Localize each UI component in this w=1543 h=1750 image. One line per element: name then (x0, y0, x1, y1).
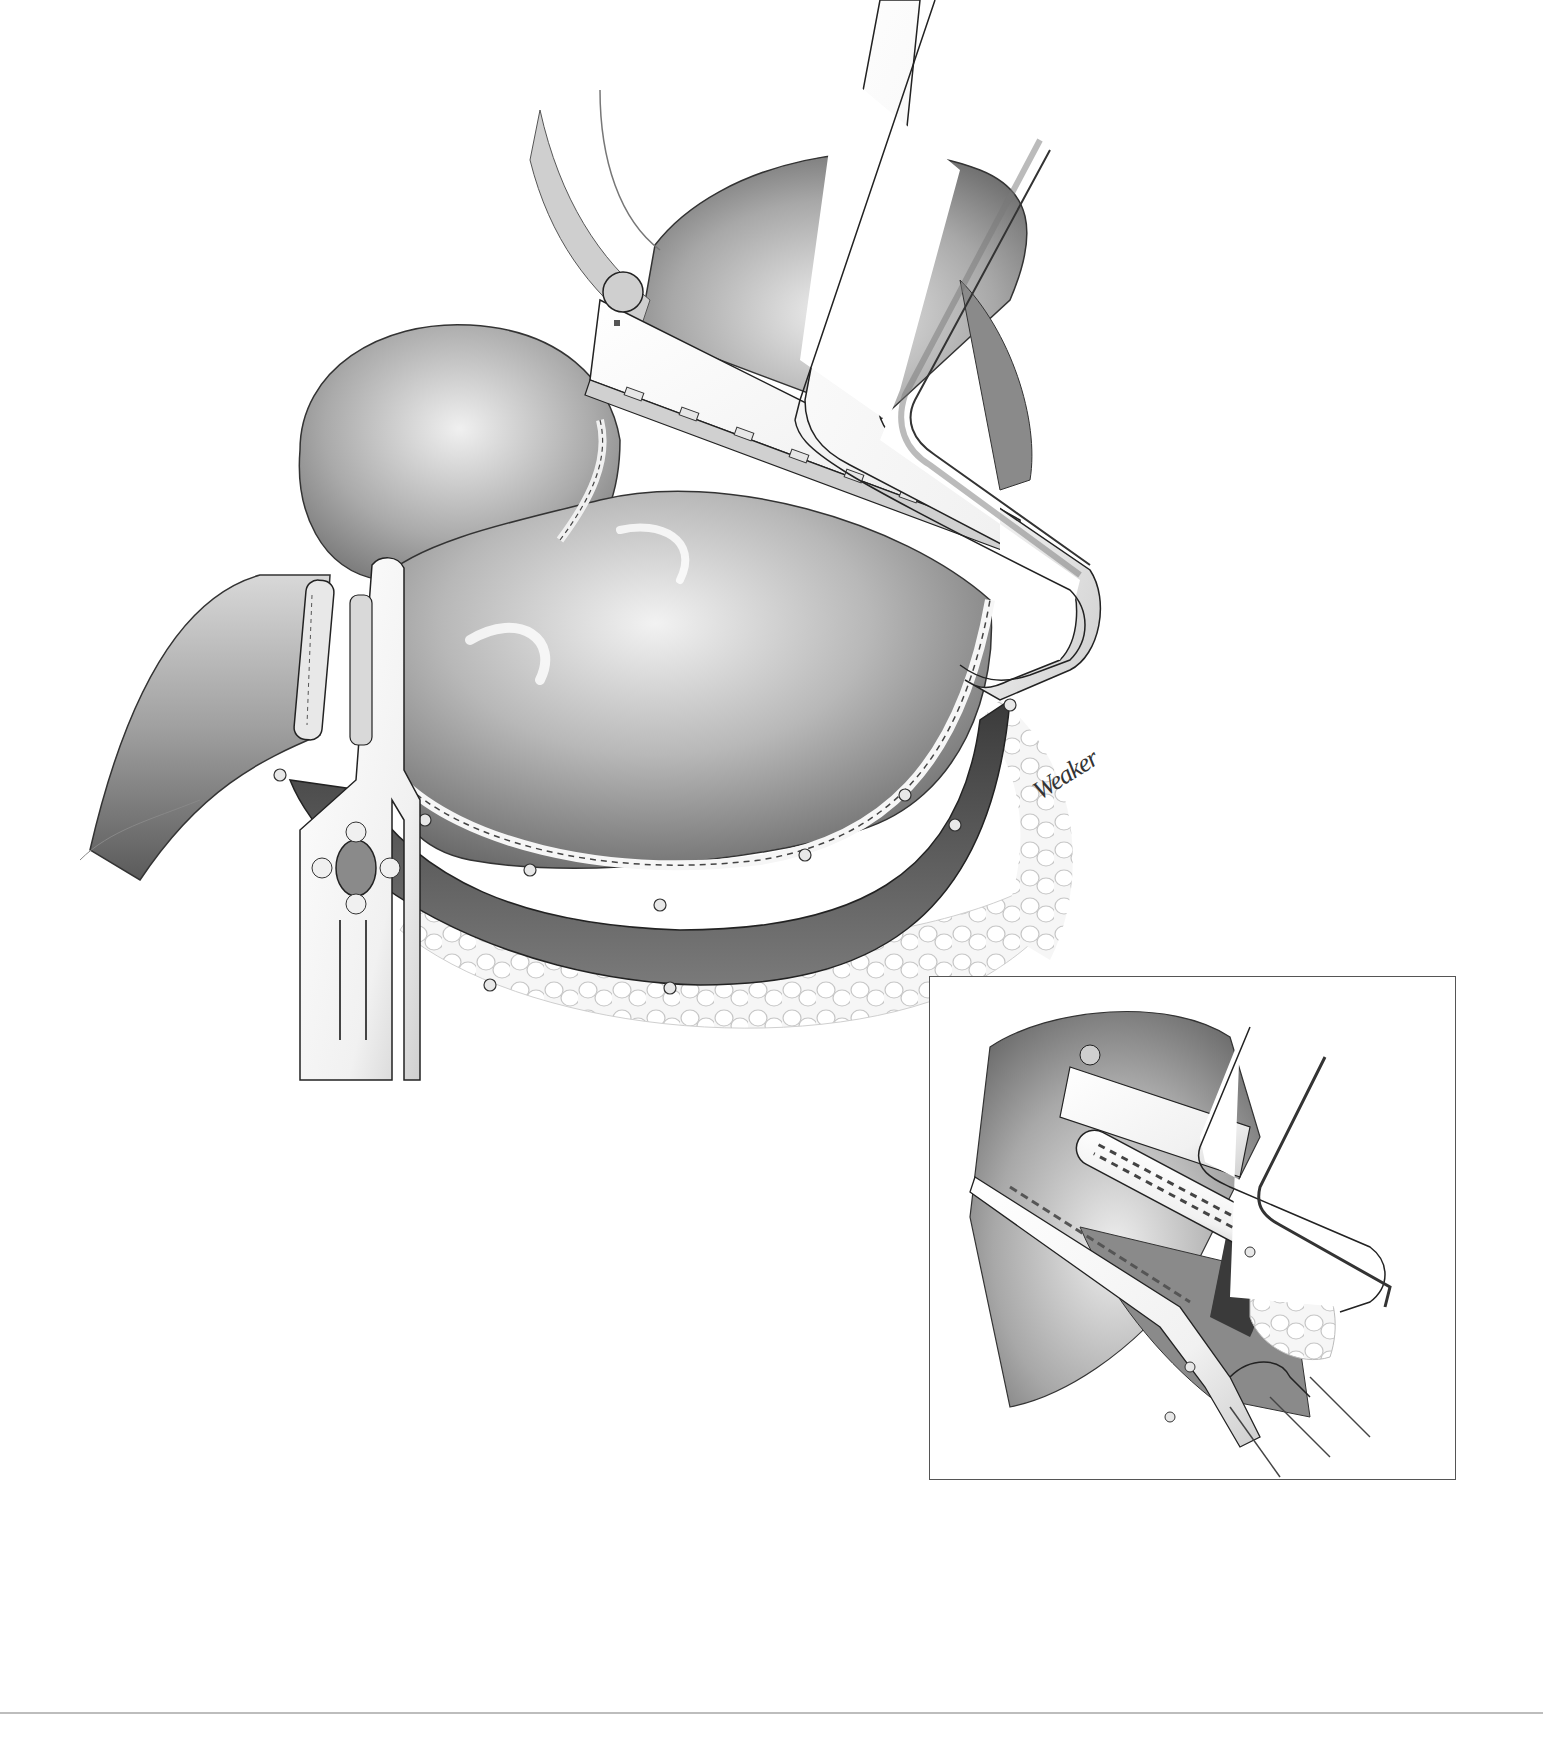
illustration-canvas: Weaker (0, 0, 1543, 1750)
bottom-divider-rule (0, 1712, 1543, 1714)
main-illustration (0, 0, 1543, 1750)
inset-illustration (930, 977, 1456, 1480)
detail-inset (929, 976, 1456, 1480)
